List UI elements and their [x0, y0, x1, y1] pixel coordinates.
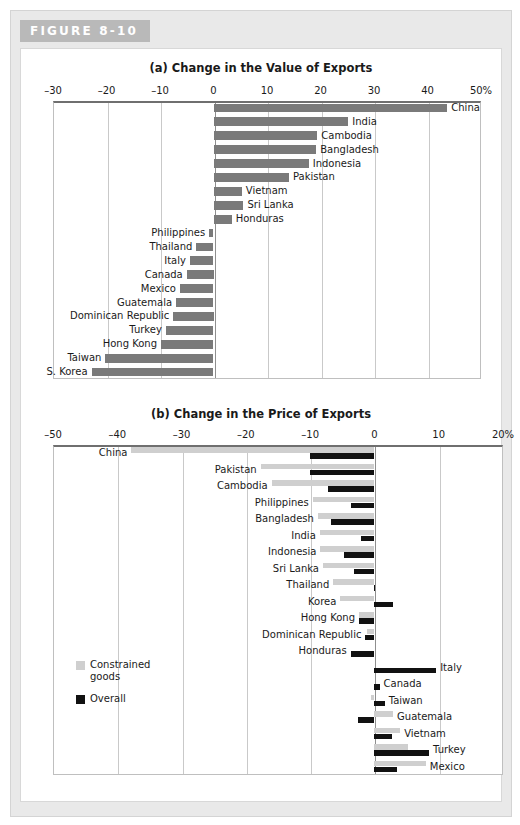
chart-b: (b) Change in the Price of Exports –50–4… [21, 407, 501, 799]
gridline [440, 447, 441, 774]
figure-tag: FIGURE 8-10 [20, 20, 150, 42]
bar-constrained-10 [359, 612, 374, 618]
bar-category-label: Turkey [129, 325, 162, 335]
bar-category-label: Hong Kong [103, 339, 157, 349]
bar-a-7 [214, 201, 244, 210]
x-tick-label: –10 [151, 85, 169, 96]
bar-category-label: Cambodia [321, 131, 372, 141]
bar-a-1 [214, 117, 349, 126]
figure-page: FIGURE 8-10 (a) Change in the Value of E… [0, 0, 520, 825]
bar-category-label: Canada [384, 679, 422, 689]
legend-label: Overall [76, 693, 152, 705]
bar-a-5 [214, 173, 289, 182]
bar-a-12 [187, 270, 214, 279]
bar-overall-15 [374, 701, 384, 707]
bar-category-label: Dominican Republic [262, 630, 361, 640]
bar-category-label: China [99, 448, 128, 458]
bar-overall-13 [374, 668, 436, 674]
bar-category-label: Indonesia [268, 547, 316, 557]
bar-a-3 [214, 145, 317, 154]
legend-swatch-constrained-goods-icon [76, 661, 85, 670]
bar-constrained-19 [374, 761, 425, 767]
x-tick-label: –40 [108, 429, 126, 440]
legend-item-overall[interactable]: Overall [76, 693, 152, 705]
x-tick-label: –20 [237, 429, 255, 440]
bar-a-16 [166, 326, 214, 335]
bar-overall-19 [374, 767, 397, 773]
bar-category-label: Hong Kong [301, 613, 355, 623]
bar-category-label: Thailand [286, 580, 329, 590]
bar-category-label: Cambodia [217, 481, 268, 491]
bar-category-label: Sri Lanka [247, 200, 293, 210]
bar-category-label: Taiwan [389, 696, 423, 706]
bar-constrained-6 [320, 546, 374, 552]
bar-category-label: Philippines [255, 498, 309, 508]
bar-a-15 [173, 312, 213, 321]
bar-overall-11 [365, 635, 374, 641]
bar-constrained-2 [272, 480, 375, 486]
bar-constrained-3 [313, 497, 375, 503]
bar-category-label: Pakistan [293, 172, 335, 182]
bar-category-label: Guatemala [117, 298, 172, 308]
bar-category-label: Guatemala [397, 712, 452, 722]
bar-overall-3 [351, 503, 375, 509]
bar-a-14 [176, 298, 213, 307]
bar-constrained-9 [340, 596, 374, 602]
bar-category-label: India [291, 531, 316, 541]
x-tick-label: –20 [98, 85, 116, 96]
bar-category-label: Italy [440, 663, 462, 673]
gridline [108, 103, 109, 378]
bar-constrained-15 [371, 695, 374, 701]
bar-constrained-0 [131, 447, 374, 453]
x-tick-label: –50 [44, 429, 62, 440]
bar-a-8 [214, 215, 232, 224]
bar-constrained-8 [333, 579, 374, 585]
bar-constrained-1 [261, 464, 375, 470]
x-tick-label: 40 [421, 85, 434, 96]
bar-constrained-4 [318, 513, 375, 519]
bar-category-label: Honduras [236, 214, 284, 224]
chart-b-legend: Constrained goodsOverall [76, 659, 152, 715]
bar-category-label: Canada [145, 270, 183, 280]
bar-category-label: Thailand [149, 242, 192, 252]
legend-item-constrained-goods[interactable]: Constrained goods [76, 659, 152, 683]
bar-category-label: S. Korea [46, 367, 87, 377]
bar-overall-6 [344, 552, 375, 558]
bar-category-label: Mexico [141, 284, 176, 294]
gridline [118, 447, 119, 774]
x-tick-label: –10 [301, 429, 319, 440]
gridline [429, 103, 430, 378]
bar-a-17 [161, 340, 213, 349]
bar-a-2 [214, 131, 318, 140]
bar-category-label: Dominican Republic [70, 311, 169, 321]
bar-constrained-7 [323, 563, 374, 569]
bar-overall-2 [328, 486, 374, 492]
bar-category-label: Taiwan [67, 353, 101, 363]
bar-a-13 [180, 284, 214, 293]
bar-overall-4 [331, 519, 375, 525]
x-tick-label: 10 [261, 85, 274, 96]
bar-overall-9 [374, 602, 393, 608]
bar-category-label: Korea [308, 597, 336, 607]
chart-b-plot [53, 445, 503, 775]
bar-a-19 [92, 368, 214, 377]
bar-category-label: Bangladesh [320, 145, 379, 155]
bar-overall-7 [354, 569, 375, 575]
bar-category-label: Bangladesh [255, 514, 314, 524]
x-tick-label: 20% [492, 429, 514, 440]
bar-overall-17 [374, 734, 391, 740]
zero-axis-line [375, 447, 376, 774]
gridline [183, 447, 184, 774]
chart-a-title: (a) Change in the Value of Exports [21, 61, 501, 75]
bar-category-label: Honduras [299, 646, 347, 656]
bar-category-label: Italy [164, 256, 186, 266]
bar-constrained-11 [367, 629, 374, 635]
bar-overall-0 [310, 453, 374, 459]
bar-category-label: China [451, 103, 480, 113]
bar-category-label: Mexico [430, 762, 465, 772]
x-tick-label: 50% [470, 85, 492, 96]
bar-category-label: Philippines [151, 228, 205, 238]
x-tick-label: –30 [173, 429, 191, 440]
bar-constrained-16 [374, 711, 393, 717]
bar-category-label: India [352, 117, 377, 127]
